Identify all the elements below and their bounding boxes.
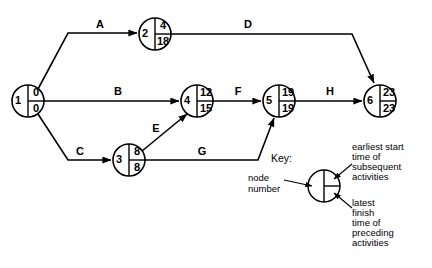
key-legend: Key: node number earliest start time of … — [248, 141, 404, 248]
activity-label-b: B — [114, 85, 122, 97]
activity-label-f: F — [235, 85, 242, 97]
node-1-number: 1 — [15, 94, 21, 106]
node-4-earliest-start: 12 — [200, 86, 212, 98]
activity-label-e: E — [152, 122, 159, 134]
node-1-latest-finish: 0 — [33, 102, 39, 114]
key-label-node-number-line2: number — [248, 183, 280, 194]
key-leader-latest-finish — [334, 193, 352, 208]
node-2-number: 2 — [142, 27, 148, 39]
edge-activity-e — [142, 114, 187, 151]
node-3-number: 3 — [116, 153, 122, 165]
node-5-number: 5 — [266, 94, 272, 106]
node-3-earliest-start: 8 — [134, 145, 140, 157]
node-6-earliest-start: 23 — [383, 86, 395, 98]
key-title: Key: — [271, 152, 292, 164]
node-4-latest-finish: 15 — [200, 102, 212, 114]
node-4[interactable]: 4 12 15 — [181, 85, 213, 117]
node-4-number: 4 — [184, 94, 191, 106]
edge-activity-g — [145, 118, 274, 160]
activity-label-g: G — [198, 145, 207, 157]
key-node-symbol — [308, 170, 340, 202]
node-1[interactable]: 1 0 0 — [12, 85, 44, 117]
activity-label-a: A — [96, 18, 104, 30]
node-3-latest-finish: 8 — [134, 161, 140, 173]
edge-activity-d — [171, 34, 374, 83]
node-2-earliest-start: 4 — [160, 19, 167, 31]
key-caption-earliest-line4: activities — [352, 171, 389, 182]
activity-label-h: H — [326, 85, 334, 97]
edge-activity-c — [38, 114, 111, 160]
network-diagram-canvas: 1 0 0 2 4 18 3 8 8 4 12 — [0, 0, 432, 268]
key-caption-latest-line5: activities — [352, 237, 389, 248]
node-5-earliest-start: 19 — [282, 86, 294, 98]
edge-activity-a — [38, 33, 137, 89]
node-2-latest-finish: 18 — [157, 35, 169, 47]
node-6[interactable]: 6 23 23 — [364, 85, 396, 117]
node-5[interactable]: 5 19 19 — [263, 85, 295, 117]
activity-label-c: C — [76, 145, 84, 157]
node-3[interactable]: 3 8 8 — [113, 144, 145, 176]
node-6-number: 6 — [367, 94, 373, 106]
node-1-earliest-start: 0 — [33, 86, 39, 98]
node-5-latest-finish: 19 — [282, 102, 294, 114]
key-leader-earliest-start — [334, 164, 352, 179]
activity-label-d: D — [244, 18, 252, 30]
network-diagram: 1 0 0 2 4 18 3 8 8 4 12 — [0, 0, 432, 268]
node-2[interactable]: 2 4 18 — [139, 18, 171, 50]
key-label-node-number-line1: node — [248, 172, 269, 183]
node-6-latest-finish: 23 — [383, 102, 395, 114]
